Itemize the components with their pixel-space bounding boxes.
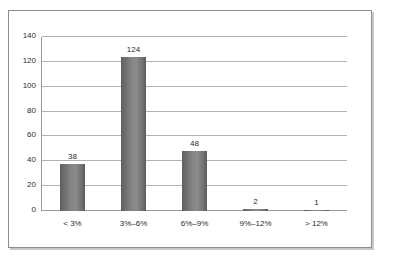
bar-value-label: 1 (314, 199, 318, 207)
bar[interactable]: 48 (182, 151, 207, 211)
y-axis-tick-label: 100 (23, 82, 36, 90)
y-axis-tick-label: 120 (23, 57, 36, 65)
bar-value-label: 48 (190, 140, 199, 148)
x-axis-tick-label: 6%–9% (181, 220, 209, 228)
bar[interactable]: 124 (121, 57, 146, 211)
plot-area: 020406080100120140 38< 3%1243%–6%486%–9%… (42, 37, 347, 211)
bar-value-label: 124 (127, 46, 140, 54)
x-axis-tick-label: 3%–6% (120, 220, 148, 228)
x-axis-tick-label: > 12% (305, 220, 328, 228)
bar-slot: 486%–9% (164, 37, 225, 211)
y-axis-tick-label: 20 (27, 181, 36, 189)
y-axis-tick-label: 0 (32, 206, 36, 214)
bar-slot: 29%–12% (225, 37, 286, 211)
chart-figure: 020406080100120140 38< 3%1243%–6%486%–9%… (8, 10, 372, 248)
bar-slot: 38< 3% (42, 37, 103, 211)
y-axis-tick-label: 60 (27, 131, 36, 139)
bar-slot: 1> 12% (286, 37, 347, 211)
bar[interactable]: 1 (304, 210, 329, 211)
y-axis-tick-label: 40 (27, 156, 36, 164)
bar-value-label: 2 (253, 198, 257, 206)
bar[interactable]: 2 (243, 209, 268, 211)
bar-value-label: 38 (68, 153, 77, 161)
bar-slot: 1243%–6% (103, 37, 164, 211)
x-axis-tick-label: < 3% (63, 220, 81, 228)
x-axis-tick-label: 9%–12% (239, 220, 271, 228)
y-axis-tick-label: 80 (27, 107, 36, 115)
bars-group: 38< 3%1243%–6%486%–9%29%–12%1> 12% (42, 37, 347, 211)
bar[interactable]: 38 (60, 164, 85, 211)
y-axis-tick-label: 140 (23, 32, 36, 40)
